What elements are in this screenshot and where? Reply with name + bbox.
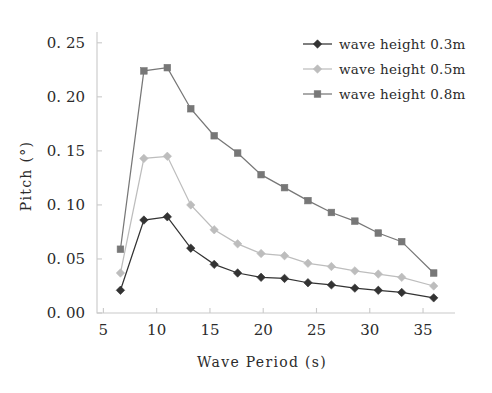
legend-entry-0[interactable]: wave height 0.3m	[303, 36, 466, 52]
legend-entry-2[interactable]: wave height 0.8m	[303, 86, 466, 102]
x-tick-label: 5	[99, 321, 109, 339]
legend-label: wave height 0.5m	[339, 61, 466, 77]
data-point-marker-diamond	[327, 262, 335, 270]
data-point-marker-square	[281, 184, 288, 191]
data-point-marker-diamond	[429, 294, 437, 302]
data-point-marker-diamond	[257, 249, 265, 257]
data-point-marker-diamond	[304, 259, 312, 267]
data-point-marker-diamond	[257, 273, 265, 281]
data-point-marker-diamond	[163, 152, 171, 160]
data-point-marker-square	[187, 105, 194, 112]
series-1	[116, 152, 438, 290]
y-axis-title: Pitch (°)	[18, 141, 34, 211]
x-tick-label: 35	[413, 321, 432, 339]
y-axis-tick-labels: 0. 000. 050. 100. 150. 200. 25	[47, 34, 85, 322]
data-point-marker-diamond	[398, 273, 406, 281]
y-tick-label: 0. 05	[47, 250, 85, 268]
data-point-marker-diamond	[280, 252, 288, 260]
data-point-marker-diamond	[116, 286, 124, 294]
data-point-marker-square	[234, 150, 241, 157]
data-point-marker-diamond	[304, 279, 312, 287]
x-axis-title: Wave Period (s)	[197, 354, 327, 370]
y-tick-label: 0. 10	[47, 196, 85, 214]
data-point-marker-diamond	[116, 269, 124, 277]
data-point-marker-square	[211, 132, 218, 139]
x-tick-label: 30	[360, 321, 379, 339]
y-tick-label: 0. 25	[47, 34, 85, 52]
data-point-marker-square	[375, 230, 382, 237]
y-tick-label: 0. 00	[47, 304, 85, 322]
data-point-marker-diamond	[233, 269, 241, 277]
data-point-marker-square	[164, 64, 171, 71]
data-point-marker-diamond	[233, 240, 241, 248]
data-point-marker-square	[258, 171, 265, 178]
data-point-marker-diamond	[313, 40, 321, 48]
data-point-marker-square	[398, 238, 405, 245]
pitch-vs-wave-period-line-chart: 5101520253035 0. 000. 050. 100. 150. 200…	[0, 0, 492, 393]
legend-label: wave height 0.8m	[339, 86, 466, 102]
y-tick-label: 0. 20	[47, 88, 85, 106]
data-point-marker-diamond	[398, 288, 406, 296]
data-point-marker-diamond	[374, 270, 382, 278]
x-axis-tick-labels: 5101520253035	[99, 321, 433, 339]
data-point-marker-diamond	[429, 282, 437, 290]
series-line	[120, 217, 433, 298]
data-point-marker-diamond	[327, 281, 335, 289]
data-point-marker-diamond	[210, 260, 218, 268]
data-point-marker-square	[352, 218, 359, 225]
data-point-marker-diamond	[313, 65, 321, 73]
data-point-marker-square	[117, 246, 124, 253]
x-tick-label: 10	[147, 321, 166, 339]
data-point-marker-diamond	[140, 154, 148, 162]
chart-legend: wave height 0.3mwave height 0.5mwave hei…	[303, 36, 466, 102]
data-point-marker-diamond	[374, 286, 382, 294]
data-point-marker-square	[141, 68, 148, 75]
data-point-marker-diamond	[351, 267, 359, 275]
data-point-marker-square	[430, 270, 437, 277]
x-tick-label: 20	[254, 321, 273, 339]
chart-container: 5101520253035 0. 000. 050. 100. 150. 200…	[0, 0, 492, 393]
data-point-marker-diamond	[351, 284, 359, 292]
legend-entry-1[interactable]: wave height 0.5m	[303, 61, 466, 77]
data-point-marker-square	[328, 209, 335, 216]
y-tick-label: 0. 15	[47, 142, 85, 160]
legend-label: wave height 0.3m	[339, 36, 466, 52]
data-point-marker-square	[305, 197, 312, 204]
data-point-marker-square	[314, 91, 321, 98]
data-point-marker-diamond	[280, 274, 288, 282]
x-tick-label: 15	[200, 321, 219, 339]
x-tick-label: 25	[307, 321, 326, 339]
data-point-marker-diamond	[140, 216, 148, 224]
series-0	[116, 213, 438, 303]
